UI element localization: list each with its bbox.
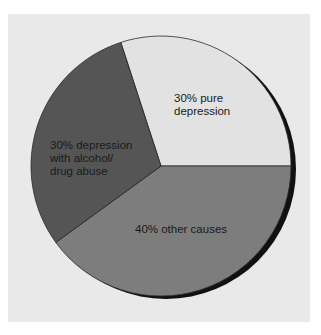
label-alcohol-drug-abuse: 30% depression with alcohol/ drug abuse [50,139,132,178]
label-pure-depression: 30% pure depression [174,92,230,118]
label-other-causes: 40% other causes [135,223,227,236]
pie-chart [0,0,321,335]
